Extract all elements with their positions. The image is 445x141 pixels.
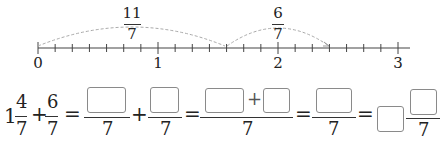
term2-denominator: 7 xyxy=(160,120,171,138)
plus-sign: + xyxy=(31,104,48,124)
number-line xyxy=(0,0,445,75)
term4-denominator: 7 xyxy=(328,120,339,138)
arc1-denominator: 7 xyxy=(127,27,137,42)
answer-box-4[interactable] xyxy=(263,88,290,113)
frac2-denominator: 7 xyxy=(47,120,58,138)
plus-sign: + xyxy=(247,90,262,108)
tick-label-0: 0 xyxy=(33,56,43,71)
term3-denominator: 7 xyxy=(242,120,253,138)
equals-sign: = xyxy=(184,104,201,124)
tick-label-3: 3 xyxy=(393,56,403,71)
arc2-denominator: 7 xyxy=(273,27,283,42)
math-problem: 0 1 2 3 11 7 6 7 1 4 7 + 6 7 = 7 + 7 = +… xyxy=(0,0,445,141)
arc2-numerator: 6 xyxy=(273,6,283,21)
arc1-numerator: 11 xyxy=(122,6,141,21)
tick-label-2: 2 xyxy=(273,56,283,71)
plus-sign: + xyxy=(131,104,148,124)
arrow-head-icon xyxy=(323,42,329,46)
term1-denominator: 7 xyxy=(102,120,113,138)
term5-denominator: 7 xyxy=(418,121,429,139)
equals-sign: = xyxy=(64,104,81,124)
answer-box-7-numerator[interactable] xyxy=(410,89,437,115)
answer-box-6-whole[interactable] xyxy=(377,106,404,132)
answer-box-3[interactable] xyxy=(205,88,244,113)
equals-sign: = xyxy=(295,104,312,124)
tick-label-1: 1 xyxy=(153,56,163,71)
frac2-numerator: 6 xyxy=(47,93,58,111)
frac1-denominator: 7 xyxy=(16,120,27,138)
answer-box-5[interactable] xyxy=(316,88,352,113)
equals-sign: = xyxy=(357,104,374,124)
frac1-numerator: 4 xyxy=(16,93,27,111)
answer-box-2[interactable] xyxy=(150,87,179,113)
answer-box-1[interactable] xyxy=(87,87,126,113)
